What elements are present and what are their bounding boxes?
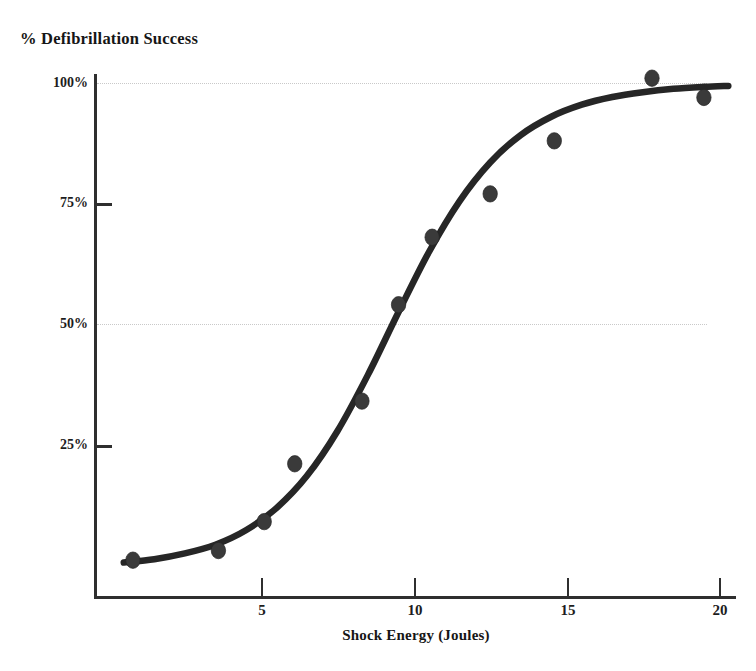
data-point bbox=[483, 186, 497, 202]
data-point bbox=[288, 456, 302, 472]
data-point bbox=[547, 133, 561, 149]
data-point bbox=[211, 542, 225, 558]
plot-area: 100% 75% 50% 25% 5 10 15 20 bbox=[0, 0, 756, 671]
data-point bbox=[425, 229, 439, 245]
data-point bbox=[257, 513, 271, 529]
data-point bbox=[645, 70, 659, 86]
data-point bbox=[697, 89, 711, 105]
data-point bbox=[391, 297, 405, 313]
x-axis-title-text: Shock Energy (Joules) bbox=[342, 627, 490, 643]
data-point bbox=[126, 552, 140, 568]
data-point bbox=[355, 393, 369, 409]
data-points-layer bbox=[0, 0, 756, 671]
x-axis-title: Shock Energy (Joules) bbox=[0, 627, 756, 644]
defibrillation-success-chart: % Defibrillation Success 100% 75% 50% 25… bbox=[0, 0, 756, 671]
